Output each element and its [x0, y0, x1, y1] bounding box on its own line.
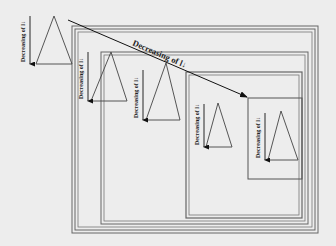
nested-boxes-diagram: Decreasing of l↓ Decreasing of l↓ Decrea…: [0, 0, 336, 246]
vertical-label-2: Decreasing of l↓: [78, 58, 84, 99]
triangle-3: [146, 63, 180, 120]
vertical-label-1: Decreasing of l↓: [20, 21, 26, 62]
main-arrow-label: Decreasing of l↓: [131, 38, 188, 70]
diagonal-arrow-icon: [68, 20, 247, 97]
triangle-2: [91, 52, 127, 101]
triangle-1: [36, 16, 72, 64]
diagram-svg: Decreasing of l↓ Decreasing of l↓ Decrea…: [0, 0, 336, 246]
vertical-label-5: Decreasing of l↓: [255, 117, 261, 158]
vertical-label-3: Decreasing of l↓: [133, 77, 139, 118]
box-level-3: [186, 72, 302, 218]
vertical-label-4: Decreasing of l↓: [194, 104, 200, 145]
triangle-4: [206, 103, 232, 147]
triangle-5: [268, 111, 298, 160]
